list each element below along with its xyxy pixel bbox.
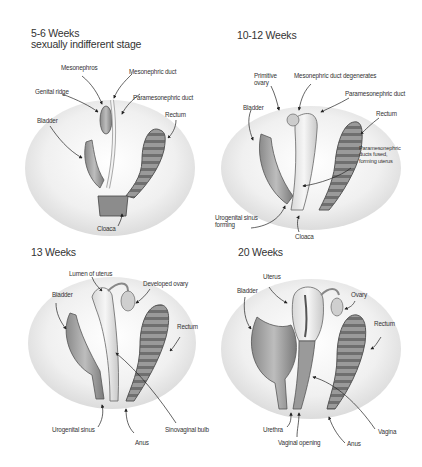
panel-5-6-weeks: 5-6 Weeks sexually indifferent stage Mes…: [0, 0, 211, 233]
label-vagina: Vagina: [378, 428, 396, 435]
label-rectum: Rectum: [165, 111, 186, 118]
label-lumen-of-uterus: Lumen of uterus: [69, 270, 112, 277]
developed-ovary-shape: [121, 291, 135, 311]
panel-10-12-weeks: 10-12 Weeks Primitive ovary Mesonephric …: [211, 0, 422, 233]
arrow-mesonephric-duct: [114, 74, 132, 98]
label-urogenital-sinus: Urogenital sinus: [52, 426, 95, 433]
cloaca-shape: [98, 196, 128, 216]
label-bladder: Bladder: [237, 287, 258, 294]
label-paramesonephric-duct: Paramesonephric duct: [345, 90, 405, 97]
label-bladder: Bladder: [37, 117, 58, 124]
label-uterus: Uterus: [263, 273, 281, 280]
label-urogenital-sinus-forming: Urogenital sinus forming: [215, 214, 261, 228]
label-mesonephric-duct: Mesonephric duct: [129, 68, 176, 75]
label-anus: Anus: [347, 440, 361, 447]
label-genital-ridge: Genital ridge: [35, 88, 69, 95]
arrow-anus: [126, 409, 134, 433]
label-developed-ovary: Developed ovary: [143, 280, 188, 287]
panel-title: 10-12 Weeks: [237, 30, 296, 41]
label-sinovaginal-bulb: Sinovaginal bulb: [165, 426, 209, 433]
panel-20-weeks: 20 Weeks Uterus Bladder Ovary Rectum Ure…: [211, 233, 422, 466]
label-rectum: Rectum: [376, 110, 397, 117]
label-rectum: Rectum: [374, 320, 395, 327]
arrow-primitive-ovary: [271, 86, 279, 110]
label-paramesonephric-fused: Paramesonephric ducts fused, forming ute…: [359, 145, 401, 164]
label-bladder: Bladder: [243, 104, 264, 111]
label-mesonephric-duct-degenerates: Mesonephric duct degenerates: [294, 72, 376, 79]
label-primitive-ovary: Primitive ovary: [254, 72, 284, 86]
arrow-anus: [329, 417, 345, 443]
panel-13-weeks: 13 Weeks Lumen of uterus Developed ovary…: [0, 233, 211, 466]
arrow-mesonephros: [82, 76, 102, 104]
ovary-shape: [331, 298, 343, 316]
panel-title: 20 Weeks: [238, 247, 283, 258]
label-cloaca: Cloaca: [97, 225, 116, 232]
panel-title: 13 Weeks: [31, 247, 76, 258]
label-paramesonephric-duct: Paramesonephric duct: [133, 94, 193, 101]
mesonephros-shape: [100, 106, 112, 134]
label-mesonephros: Mesonephros: [61, 64, 98, 71]
label-anus: Anus: [135, 439, 149, 446]
panel-subtitle: sexually indifferent stage: [31, 39, 141, 50]
label-ovary: Ovary: [351, 291, 367, 298]
label-vaginal-opening: Vaginal opening: [278, 439, 320, 446]
label-urethra: Urethra: [263, 426, 283, 433]
label-rectum: Rectum: [177, 323, 198, 330]
uterus-shape: [292, 287, 323, 341]
primitive-ovary-shape: [287, 114, 299, 126]
label-bladder: Bladder: [52, 291, 73, 298]
